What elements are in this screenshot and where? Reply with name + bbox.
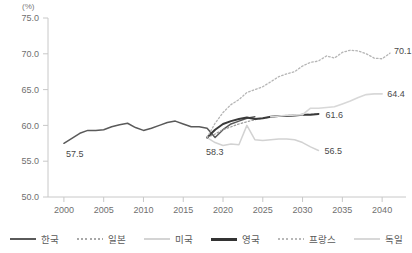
x-tick-label: 2040 (372, 205, 392, 215)
legend-item-일본[interactable]: 일본 (77, 232, 126, 246)
y-tick-label: 70.0 (21, 49, 39, 59)
data-series-group (64, 50, 390, 150)
data-label-70.1: 70.1 (394, 46, 412, 56)
legend-item-한국[interactable]: 한국 (10, 232, 59, 246)
data-label-57.5: 57.5 (66, 149, 84, 159)
series-line-한국 (64, 117, 255, 143)
series-line-영국 (207, 114, 318, 138)
data-labels-group: 57.558.361.664.456.570.1 (66, 46, 412, 159)
x-tick-label: 2005 (94, 205, 114, 215)
legend-label: 프랑스 (309, 232, 336, 246)
chart-legend: 한국일본미국영국프랑스독일 (0, 228, 412, 250)
legend-item-독일[interactable]: 독일 (354, 232, 403, 246)
x-tick-label: 2020 (213, 205, 233, 215)
data-label-58.3: 58.3 (206, 147, 224, 157)
x-tick-label: 2030 (293, 205, 313, 215)
legend-label: 영국 (242, 232, 260, 246)
data-label-64.4: 64.4 (387, 89, 405, 99)
legend-label: 일본 (108, 232, 126, 246)
y-tick-label: 65.0 (21, 85, 39, 95)
legend-label: 한국 (41, 232, 59, 246)
x-tick-label: 2035 (332, 205, 352, 215)
legend-item-영국[interactable]: 영국 (211, 232, 260, 246)
legend-item-미국[interactable]: 미국 (144, 232, 193, 246)
y-tick-label: 75.0 (21, 13, 39, 23)
data-label-61.6: 61.6 (325, 110, 343, 120)
y-tick-label: 50.0 (21, 192, 39, 202)
y-axis-ticks: 50.055.060.065.070.075.0 (21, 13, 48, 202)
x-tick-label: 2000 (54, 205, 74, 215)
legend-label: 독일 (385, 232, 403, 246)
y-tick-label: 60.0 (21, 121, 39, 131)
legend-label: 미국 (175, 232, 193, 246)
series-line-프랑스 (207, 50, 390, 137)
x-tick-label: 2010 (133, 205, 153, 215)
y-tick-label: 55.0 (21, 156, 39, 166)
x-tick-label: 2025 (253, 205, 273, 215)
legend-item-프랑스[interactable]: 프랑스 (278, 232, 336, 246)
chart-plot-area: 50.055.060.065.070.075.0 200020052010201… (0, 0, 412, 253)
x-axis-ticks: 200020052010201520202025203020352040 (54, 197, 392, 215)
data-label-56.5: 56.5 (324, 146, 342, 156)
x-tick-label: 2015 (173, 205, 193, 215)
line-chart: (%) 50.055.060.065.070.075.0 20002005201… (0, 0, 412, 253)
